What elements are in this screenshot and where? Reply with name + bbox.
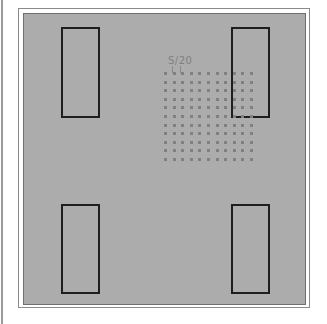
grid-dot bbox=[164, 149, 167, 152]
rectangle-bottom-right[interactable] bbox=[231, 204, 270, 294]
grid-dot bbox=[173, 81, 176, 84]
grid-dot bbox=[241, 81, 244, 84]
grid-dot bbox=[190, 149, 193, 152]
grid-dot bbox=[164, 141, 167, 144]
grid-dot bbox=[190, 106, 193, 109]
grid-dot bbox=[207, 149, 210, 152]
grid-dot bbox=[250, 89, 253, 92]
grid-dot bbox=[181, 106, 184, 109]
grid-dot bbox=[207, 124, 210, 127]
rectangle-bottom-left[interactable] bbox=[61, 204, 100, 294]
grid-dot bbox=[190, 158, 193, 161]
grid-dot bbox=[250, 72, 253, 75]
grid-dot bbox=[233, 132, 236, 135]
grid-dot bbox=[224, 89, 227, 92]
grid-dot bbox=[233, 98, 236, 101]
grid-dot bbox=[164, 132, 167, 135]
grid-dot bbox=[181, 98, 184, 101]
grid-dot bbox=[250, 149, 253, 152]
grid-dot bbox=[164, 72, 167, 75]
grid-dot bbox=[190, 124, 193, 127]
grid-dot bbox=[190, 72, 193, 75]
grid-dot bbox=[233, 72, 236, 75]
grid-dot bbox=[173, 124, 176, 127]
grid-dot bbox=[207, 158, 210, 161]
grid-dot bbox=[181, 115, 184, 118]
grid-dot bbox=[241, 98, 244, 101]
grid-dot bbox=[216, 81, 219, 84]
grid-dot bbox=[181, 132, 184, 135]
grid-label: S/20 bbox=[168, 55, 192, 66]
grid-dot bbox=[224, 124, 227, 127]
grid-dot bbox=[233, 141, 236, 144]
grid-dot bbox=[224, 115, 227, 118]
grid-dot bbox=[241, 158, 244, 161]
grid-dot bbox=[207, 98, 210, 101]
grid-dot bbox=[173, 115, 176, 118]
grid-dot bbox=[250, 158, 253, 161]
grid-dot bbox=[233, 124, 236, 127]
grid-dot bbox=[173, 132, 176, 135]
grid-dot bbox=[164, 98, 167, 101]
grid-dot bbox=[181, 81, 184, 84]
grid-dot bbox=[173, 149, 176, 152]
grid-dot bbox=[173, 106, 176, 109]
grid-dot bbox=[207, 115, 210, 118]
grid-dot bbox=[190, 81, 193, 84]
grid-dot bbox=[181, 72, 184, 75]
grid-dot bbox=[198, 72, 201, 75]
grid-dot bbox=[198, 149, 201, 152]
grid-dot bbox=[233, 106, 236, 109]
grid-dot bbox=[181, 149, 184, 152]
grid-dot bbox=[250, 115, 253, 118]
grid-dot bbox=[233, 149, 236, 152]
grid-dot bbox=[198, 98, 201, 101]
grid-dot bbox=[198, 124, 201, 127]
canvas-panel[interactable]: S/20 bbox=[23, 13, 306, 305]
grid-dot bbox=[181, 158, 184, 161]
grid-dot bbox=[173, 89, 176, 92]
grid-dot bbox=[190, 141, 193, 144]
grid-dot bbox=[164, 158, 167, 161]
grid-dot bbox=[198, 89, 201, 92]
left-divider bbox=[1, 0, 3, 324]
grid-dot bbox=[250, 124, 253, 127]
grid-dot bbox=[207, 72, 210, 75]
grid-dot bbox=[241, 141, 244, 144]
grid-dot bbox=[181, 89, 184, 92]
grid-dot bbox=[224, 98, 227, 101]
grid-dot bbox=[164, 89, 167, 92]
grid-dot bbox=[241, 124, 244, 127]
grid-dot bbox=[241, 149, 244, 152]
grid-dot bbox=[224, 158, 227, 161]
grid-dot bbox=[216, 106, 219, 109]
grid-dot bbox=[207, 106, 210, 109]
grid-dot bbox=[241, 72, 244, 75]
grid-dot bbox=[216, 72, 219, 75]
grid-dot bbox=[164, 115, 167, 118]
grid-dot bbox=[216, 141, 219, 144]
grid-dot bbox=[224, 81, 227, 84]
grid-dot bbox=[164, 124, 167, 127]
grid-dot bbox=[207, 141, 210, 144]
grid-dot bbox=[241, 132, 244, 135]
grid-dot bbox=[190, 98, 193, 101]
grid-dot bbox=[207, 132, 210, 135]
grid-dot bbox=[224, 72, 227, 75]
grid-dot bbox=[190, 132, 193, 135]
grid-dot bbox=[198, 158, 201, 161]
rectangle-top-left[interactable] bbox=[61, 27, 100, 118]
grid-dot bbox=[250, 98, 253, 101]
grid-dot bbox=[224, 132, 227, 135]
grid-dot bbox=[198, 106, 201, 109]
grid-dot bbox=[173, 158, 176, 161]
grid-dot bbox=[198, 115, 201, 118]
grid-dot bbox=[250, 132, 253, 135]
grid-dot bbox=[216, 98, 219, 101]
grid-dot bbox=[173, 98, 176, 101]
grid-dot bbox=[224, 149, 227, 152]
grid-dot bbox=[250, 81, 253, 84]
grid-dot bbox=[233, 158, 236, 161]
grid-dot bbox=[198, 132, 201, 135]
grid-dot bbox=[173, 141, 176, 144]
